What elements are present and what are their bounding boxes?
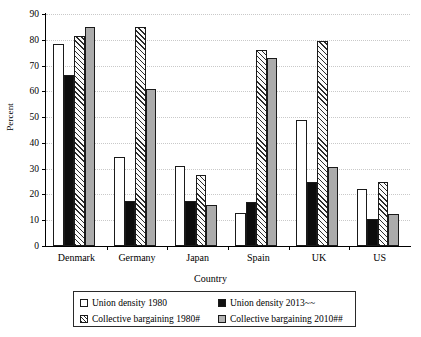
legend-item-collective-bargaining-2010: Collective bargaining 2010## [218,314,349,324]
x-axis-label: Country [0,273,421,284]
legend-item-collective-bargaining-1980: Collective bargaining 1980# [80,314,218,324]
bar [256,50,267,246]
y-axis-tick-label: 60 [30,86,40,96]
x-axis-tick [167,246,168,250]
y-axis-tick [42,246,46,247]
x-axis-tick [349,246,350,250]
x-axis-tick [289,246,290,250]
y-axis-tick-label: 20 [30,189,40,199]
bar [328,167,339,246]
bar [357,189,368,246]
y-axis-tick-label: 80 [30,35,40,45]
y-axis-tick [42,169,46,170]
x-axis-tick [228,246,229,250]
bar [74,36,85,246]
legend-item-union-density-2013: Union density 2013~~ [218,298,349,308]
legend-swatch-gray-icon [218,315,226,323]
bar [206,205,217,246]
bar [388,214,399,246]
legend-swatch-hatched-icon [80,315,88,323]
bar [307,182,318,246]
y-axis-tick-label: 40 [30,138,40,148]
legend-label: Collective bargaining 1980# [92,314,200,324]
gridline [46,220,410,221]
bar-chart-figure: Percent 0102030405060708090 Country Denm… [0,0,421,337]
bar [125,201,136,246]
legend-label: Union density 1980 [92,298,167,308]
gridline [46,91,410,92]
y-axis-tick-label: 10 [30,215,40,225]
bar [378,182,389,246]
bar [114,157,125,246]
gridline [46,66,410,67]
x-axis-group-label: US [373,252,386,263]
chart-legend: Union density 1980 Union density 2013~~ … [73,291,356,327]
y-axis-tick-label: 90 [30,9,40,19]
y-axis-tick [42,40,46,41]
x-axis-tick [107,246,108,250]
bar [135,27,146,246]
bar [235,213,246,247]
y-axis-tick [42,91,46,92]
y-axis-tick [42,66,46,67]
bar [296,120,307,246]
legend-swatch-black-icon [218,299,226,307]
y-axis-tick-label: 0 [34,241,39,251]
bar [267,58,278,246]
chart-area: Percent 0102030405060708090 Country Denm… [0,0,421,290]
y-axis-tick [42,14,46,15]
y-axis-label: Percent [5,87,15,147]
y-axis-tick-label: 50 [30,112,40,122]
x-axis-group-label: Japan [186,252,209,263]
gridline [46,194,410,195]
y-axis-tick-label: 30 [30,164,40,174]
gridline [46,14,410,15]
bar [175,166,186,246]
gridline [46,143,410,144]
y-axis-tick-label: 70 [30,61,40,71]
bar [367,219,378,246]
bar [85,27,96,246]
gridline [46,169,410,170]
bar [53,44,64,246]
x-axis-group-label: Denmark [58,252,95,263]
bar [317,41,328,246]
gridline [46,117,410,118]
y-axis-tick [42,117,46,118]
y-axis-tick [42,194,46,195]
y-axis-tick [42,143,46,144]
legend-label: Union density 2013~~ [230,298,315,308]
legend-row-1: Union density 1980 Union density 2013~~ [80,295,349,311]
legend-label: Collective bargaining 2010## [230,314,343,324]
bar [64,75,75,246]
bar [146,89,157,246]
x-axis-group-label: Germany [118,252,155,263]
x-axis-group-label: UK [312,252,326,263]
x-axis-group-label: Spain [247,252,270,263]
plot-region: 0102030405060708090 [46,14,410,246]
legend-swatch-white-icon [80,299,88,307]
bar [196,175,207,246]
bar [185,201,196,246]
y-axis-tick [42,220,46,221]
gridline [46,40,410,41]
bar [246,202,257,246]
legend-row-2: Collective bargaining 1980# Collective b… [80,311,349,327]
legend-item-union-density-1980: Union density 1980 [80,298,218,308]
